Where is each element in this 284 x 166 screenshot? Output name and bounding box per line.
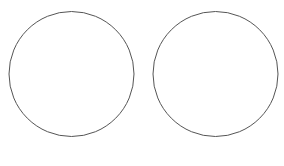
diagram-canvas bbox=[0, 0, 284, 166]
right-circle bbox=[153, 12, 278, 137]
left-circle bbox=[9, 12, 134, 137]
